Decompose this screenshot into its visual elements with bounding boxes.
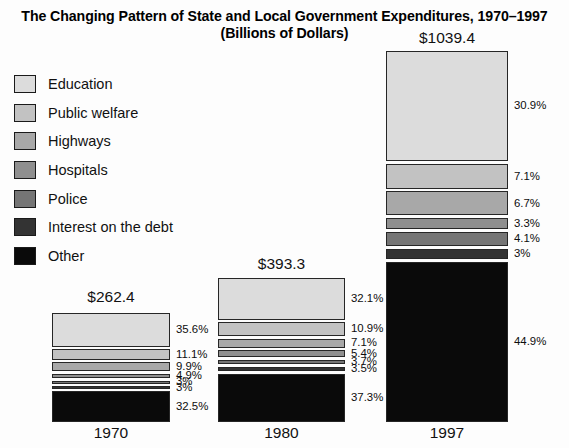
bar-segment[interactable] (386, 232, 508, 247)
bar-segment[interactable] (52, 349, 170, 360)
bar-segment-percent-label: 10.9% (351, 323, 383, 334)
bar-segment[interactable] (52, 386, 170, 389)
bar-total-label: $393.3 (218, 255, 345, 273)
bar-segment[interactable] (52, 374, 170, 379)
bar-segment-percent-label: 3.3% (514, 218, 540, 229)
legend-swatch-icon (14, 190, 36, 208)
bar-segment[interactable] (52, 313, 170, 347)
bar-segment[interactable] (386, 164, 508, 189)
bar-segment-percent-label: 11.1% (176, 349, 207, 360)
bar-stack (218, 278, 345, 422)
bar-total-label: $1039.4 (386, 29, 508, 47)
bar-segment[interactable] (386, 218, 508, 230)
bar-segment-percent-label: 37.3% (351, 392, 383, 403)
bar-segment[interactable] (386, 249, 508, 260)
bar-segment-percent-label: 44.9% (514, 336, 546, 347)
bar-segment[interactable] (218, 322, 345, 336)
bar-segment[interactable] (386, 51, 508, 161)
bar-segment[interactable] (218, 278, 345, 320)
bar-segment-percent-label: 35.6% (176, 324, 208, 335)
legend-swatch-icon (14, 132, 36, 150)
bar-segment-percent-label: 6.7% (514, 198, 540, 209)
bar-group: $262.435.6%11.1%9.9%4.9%3%3%32.5%1970 (52, 0, 170, 448)
bar-segment-percent-label: 32.5% (176, 401, 208, 412)
legend-swatch-icon (14, 161, 36, 179)
bar-segment[interactable] (52, 391, 170, 422)
bar-segment-percent-label: 3% (176, 382, 192, 393)
legend-swatch-icon (14, 247, 36, 265)
bar-segment[interactable] (386, 262, 508, 422)
bar-segment[interactable] (52, 381, 170, 384)
bar-year-label: 1970 (52, 424, 170, 442)
bar-stack (52, 313, 170, 422)
bar-segment[interactable] (218, 350, 345, 357)
legend-swatch-icon (14, 75, 36, 93)
bar-segment-percent-label: 3.5% (351, 363, 377, 374)
legend-swatch-icon (14, 218, 36, 236)
bar-segment[interactable] (218, 360, 345, 365)
bar-segment[interactable] (52, 362, 170, 371)
bar-segment[interactable] (386, 191, 508, 215)
bar-segment[interactable] (218, 339, 345, 348)
bar-group: $393.332.1%10.9%7.1%5.4%3.7%3.5%37.3%198… (218, 0, 345, 448)
bar-segment-percent-label: 7.1% (514, 171, 540, 182)
bar-segment-percent-label: 30.9% (514, 100, 546, 111)
bar-stack (386, 51, 508, 422)
legend-swatch-icon (14, 104, 36, 122)
bar-segment[interactable] (218, 367, 345, 372)
bar-segment-percent-label: 4.1% (514, 233, 540, 244)
chart-canvas: The Changing Pattern of State and Local … (0, 0, 569, 448)
bar-segment-percent-label: 32.1% (351, 293, 383, 304)
bar-segment[interactable] (218, 374, 345, 422)
bar-group: $1039.430.9%7.1%6.7%3.3%4.1%3%44.9%1997 (386, 0, 508, 448)
bar-year-label: 1997 (386, 424, 508, 442)
bar-total-label: $262.4 (52, 288, 170, 306)
bar-year-label: 1980 (218, 424, 345, 442)
bar-segment-percent-label: 3% (514, 248, 530, 259)
